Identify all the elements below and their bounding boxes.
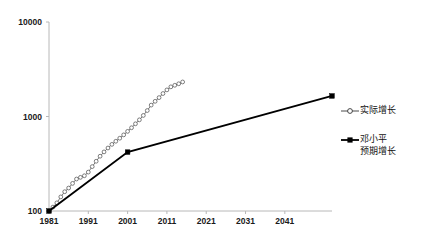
x-tick-label: 2031 <box>236 216 255 226</box>
x-tick-label: 2041 <box>275 216 294 226</box>
data-point-marker <box>118 136 122 140</box>
x-tick-label: 1981 <box>40 216 59 226</box>
y-tick-label: 1000 <box>23 112 42 122</box>
data-point-marker <box>157 96 161 100</box>
x-tick-label: 1991 <box>79 216 98 226</box>
data-point-marker <box>67 186 71 190</box>
data-point-marker <box>94 159 98 163</box>
y-tick-label: 100 <box>28 206 42 216</box>
chart-container: 100100010000 198119912001201120212031204… <box>0 0 421 249</box>
x-tick-label: 2001 <box>118 216 137 226</box>
y-tick-label: 10000 <box>18 17 42 27</box>
open-circle-line-icon <box>340 105 360 117</box>
series-deng-expected-growth <box>47 94 335 214</box>
data-point-marker <box>102 150 106 154</box>
data-point-marker <box>79 175 83 179</box>
x-tick-label: 2011 <box>158 216 177 226</box>
data-point-marker <box>141 114 145 118</box>
series-deng-expected-growth-markers <box>47 94 335 214</box>
data-point-marker <box>177 82 181 86</box>
data-point-marker <box>153 99 157 103</box>
data-point-marker <box>138 118 142 122</box>
data-point-marker <box>134 122 138 126</box>
filled-square-line-icon <box>340 134 360 146</box>
data-point-marker <box>114 139 118 143</box>
legend-label-actual-growth: 实际增长 <box>360 104 396 116</box>
data-point-marker <box>173 83 177 87</box>
x-tick-label: 2021 <box>197 216 216 226</box>
series-actual-growth-markers <box>47 80 184 213</box>
legend-label-deng-expected-growth: 邓小平 预期增长 <box>360 133 396 157</box>
legend-item-deng-expected-growth[interactable]: 邓小平 预期增长 <box>340 133 421 157</box>
data-point-marker <box>181 80 185 84</box>
legend-label-deng-line-1: 邓小平 <box>360 133 396 145</box>
data-point-marker <box>59 195 63 199</box>
data-point-marker <box>47 209 52 214</box>
data-point-marker <box>82 174 86 178</box>
legend-item-actual-growth[interactable]: 实际增长 <box>340 104 421 117</box>
data-point-marker <box>130 126 134 130</box>
chart-axes <box>46 22 332 214</box>
data-point-marker <box>106 146 110 150</box>
legend-label-deng-line-2: 预期增长 <box>360 145 396 157</box>
data-point-marker <box>330 94 335 99</box>
data-point-marker <box>165 88 169 92</box>
chart-legend: 实际增长 邓小平 预期增长 <box>340 104 421 173</box>
series-deng-expected-growth-line <box>49 96 332 211</box>
data-point-marker <box>98 154 102 158</box>
data-point-marker <box>63 190 67 194</box>
data-point-marker <box>145 109 149 113</box>
data-point-marker <box>125 150 130 155</box>
data-point-marker <box>149 103 153 107</box>
data-point-marker <box>71 181 75 185</box>
series-actual-growth-line <box>49 82 183 211</box>
data-point-marker <box>122 133 126 137</box>
data-point-marker <box>169 85 173 89</box>
series-actual-growth <box>47 80 184 213</box>
data-point-marker <box>86 170 90 174</box>
data-point-marker <box>75 177 79 181</box>
y-axis-tick-labels: 100100010000 <box>18 17 42 216</box>
data-point-marker <box>126 129 130 133</box>
data-point-marker <box>90 165 94 169</box>
data-point-marker <box>110 142 114 146</box>
x-axis-tick-labels: 1981199120012011202120312041 <box>40 216 295 226</box>
data-point-marker <box>161 92 165 96</box>
